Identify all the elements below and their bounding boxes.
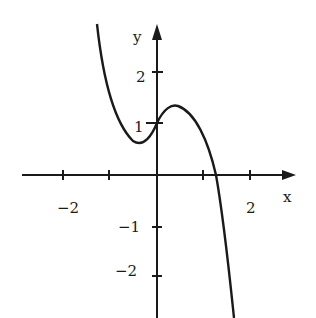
y-axis-label: y (132, 28, 142, 46)
y-tick-label-2: 2 (136, 68, 146, 86)
y-tick-label-neg2: −2 (115, 262, 137, 280)
x-tick-label-neg2: −2 (57, 199, 79, 217)
x-axis-arrow-icon (282, 170, 296, 180)
x-tick-label-2: 2 (246, 199, 256, 217)
x-axis-label: x (283, 188, 292, 206)
y-axis (146, 24, 163, 318)
y-axis-arrow-icon (152, 24, 162, 40)
y-tick-label-1: 1 (134, 118, 144, 136)
y-tick-label-neg1: −1 (118, 218, 140, 236)
x-axis (22, 170, 296, 180)
function-graph: y x −2 2 2 1 −1 −2 (0, 0, 316, 318)
